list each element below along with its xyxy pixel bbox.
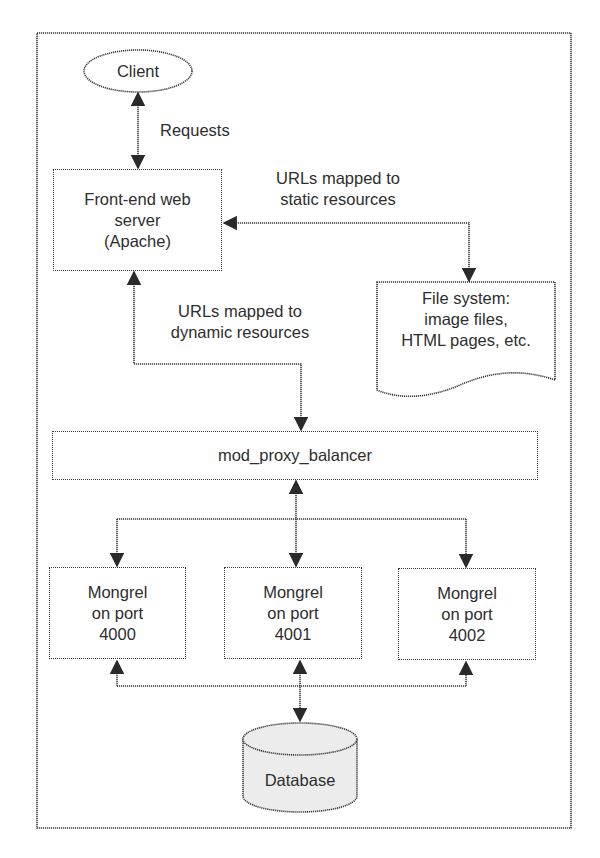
filesystem-line-2: image files, xyxy=(424,309,507,330)
filesystem-line-1: File system: xyxy=(422,288,510,309)
dynamic-arrow xyxy=(134,272,301,430)
proxy-balancer-box: mod_proxy_balancer xyxy=(52,431,538,480)
frontend-line-2: server xyxy=(115,210,161,231)
filesystem-line-3: HTML pages, etc. xyxy=(401,330,531,351)
frontend-line-1: Front-end web xyxy=(84,189,190,210)
static-arrow xyxy=(224,223,469,281)
client-node: Client xyxy=(84,50,192,92)
static-resources-label: URLs mapped to static resources xyxy=(258,168,418,210)
diagram-connectors xyxy=(0,0,600,858)
frontend-line-3: (Apache) xyxy=(104,231,171,252)
frontend-server-box: Front-end web server (Apache) xyxy=(53,169,222,271)
database-label: Database xyxy=(265,770,336,791)
client-label: Client xyxy=(117,61,159,82)
mongrel-4001-box: Mongrel on port 4001 xyxy=(224,567,362,659)
mongrel-4000-box: Mongrel on port 4000 xyxy=(49,567,186,659)
database-node: Database xyxy=(243,762,357,798)
requests-label: Requests xyxy=(160,120,230,141)
filesystem-node: File system: image files, HTML pages, et… xyxy=(377,286,555,352)
dynamic-resources-label: URLs mapped to dynamic resources xyxy=(155,301,325,343)
proxy-label: mod_proxy_balancer xyxy=(218,445,372,466)
mongrel-4002-box: Mongrel on port 4002 xyxy=(398,568,536,660)
